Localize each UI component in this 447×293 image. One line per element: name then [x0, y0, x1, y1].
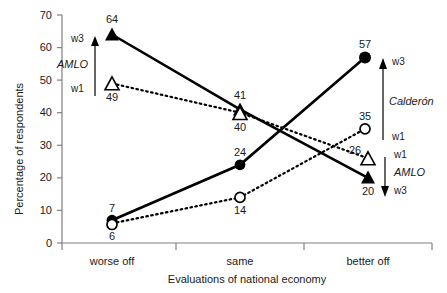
y-tick-label-20: 20	[26, 172, 52, 183]
annotation-calderon-bottom-wave: w1	[392, 132, 405, 142]
annotation-amlo-right-top-wave: w1	[394, 150, 407, 160]
chart-figure: 70 60 50 40 30 20 10 0 Percentage of res…	[0, 0, 447, 293]
point-label-amlo-w3-same: 41	[225, 90, 255, 101]
x-tick-label-better-off: better off	[323, 256, 413, 267]
annotation-left-name: AMLO	[57, 59, 88, 70]
x-tick-label-worse-off: worse off	[67, 256, 157, 267]
y-tick-label-30: 30	[26, 140, 52, 151]
y-tick-label-70: 70	[26, 10, 52, 21]
y-tick-label-10: 10	[26, 205, 52, 216]
y-tick-label-0: 0	[26, 238, 52, 249]
point-label-amlo-w3-better: 20	[353, 186, 383, 197]
point-label-amlo-w1-worse: 49	[97, 92, 127, 103]
annotation-arrow-amlo-left	[91, 36, 99, 96]
x-tick-label-same: same	[195, 256, 285, 267]
point-label-calderon-w1-better: 35	[350, 111, 380, 122]
y-axis-ticks	[57, 15, 62, 243]
annotation-amlo-right-name: AMLO	[394, 167, 425, 178]
annotation-calderon-top-wave: w3	[392, 57, 405, 67]
annotation-amlo-right-bottom-wave: w3	[394, 186, 407, 196]
y-tick-label-60: 60	[26, 42, 52, 53]
annotation-arrow-calderon-right	[379, 58, 387, 140]
point-label-calderon-w3-better: 57	[350, 39, 380, 50]
x-axis-title: Evaluations of national economy	[127, 274, 367, 285]
point-label-calderon-w3-same: 24	[225, 147, 255, 158]
annotation-left-top-wave: w3	[71, 34, 84, 44]
x-axis-ticks	[62, 243, 432, 250]
annotation-calderon-name: Calderón	[389, 96, 434, 107]
point-label-calderon-w3-worse: 7	[97, 203, 127, 214]
y-axis-title: Percentage of respondents	[14, 83, 25, 215]
point-label-amlo-w1-better: 26	[340, 145, 370, 156]
y-tick-label-40: 40	[26, 107, 52, 118]
point-label-amlo-w1-same: 40	[225, 122, 255, 133]
point-label-calderon-w1-same: 14	[225, 205, 255, 216]
point-label-calderon-w1-worse: 6	[97, 231, 127, 242]
point-label-amlo-w3-worse: 64	[97, 14, 127, 25]
annotation-left-bottom-wave: w1	[71, 84, 84, 94]
y-tick-label-50: 50	[26, 75, 52, 86]
